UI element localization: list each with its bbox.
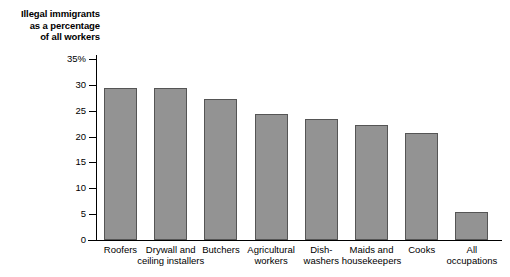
bar-chart-figure: Illegal immigrants as a percentage of al… xyxy=(0,0,510,277)
y-axis-tick-label-wrap: 35% xyxy=(0,54,86,64)
bar xyxy=(405,133,438,240)
bar xyxy=(355,125,388,240)
y-axis-tick-label: 10 xyxy=(0,183,86,193)
chart-title-line-2: as a percentage xyxy=(4,20,100,32)
bars-group xyxy=(96,59,502,240)
y-axis-tick-label-wrap: 25 xyxy=(0,106,86,116)
y-axis-tick-label-wrap: 10 xyxy=(0,183,86,193)
y-axis-tick xyxy=(89,162,96,163)
bar xyxy=(204,99,237,240)
bar xyxy=(305,119,338,240)
bar xyxy=(255,114,288,240)
y-axis-tick-label: 0 xyxy=(0,235,86,245)
bar xyxy=(104,88,137,240)
y-axis-tick-label-wrap: 0 xyxy=(0,235,86,245)
x-axis-line xyxy=(88,240,502,241)
x-axis-category-label-line: All xyxy=(435,244,509,255)
y-axis-tick-label: 35% xyxy=(0,54,86,64)
y-axis-tick-label: 25 xyxy=(0,106,86,116)
y-axis-tick xyxy=(89,214,96,215)
x-axis-labels: RoofersDrywall andceiling installersButc… xyxy=(96,244,502,276)
x-axis-category-label-line: housekeepers xyxy=(335,255,409,266)
chart-title-line-1: Illegal immigrants xyxy=(4,8,100,20)
y-axis-tick-label: 20 xyxy=(0,132,86,142)
x-axis-category-label-line: ceiling installers xyxy=(134,255,208,266)
y-axis-tick-label: 30 xyxy=(0,80,86,90)
bar xyxy=(154,88,187,240)
chart-title-line-3: of all workers xyxy=(4,31,100,43)
y-axis-tick xyxy=(89,59,96,60)
y-axis-tick-label: 5 xyxy=(0,209,86,219)
y-axis-tick xyxy=(89,240,96,241)
y-axis-tick xyxy=(89,85,96,86)
chart-title: Illegal immigrants as a percentage of al… xyxy=(4,8,100,43)
y-axis-tick-label-wrap: 5 xyxy=(0,209,86,219)
y-axis-tick xyxy=(89,137,96,138)
y-axis-tick-label: 15 xyxy=(0,157,86,167)
x-axis-category-label: Alloccupations xyxy=(435,244,509,266)
y-axis-tick xyxy=(89,188,96,189)
y-axis-tick-label-wrap: 30 xyxy=(0,80,86,90)
y-axis-tick-label-wrap: 15 xyxy=(0,157,86,167)
y-axis-tick-label-wrap: 20 xyxy=(0,132,86,142)
x-axis-category-label-line: occupations xyxy=(435,255,509,266)
y-axis-tick xyxy=(89,111,96,112)
bar xyxy=(455,212,488,240)
